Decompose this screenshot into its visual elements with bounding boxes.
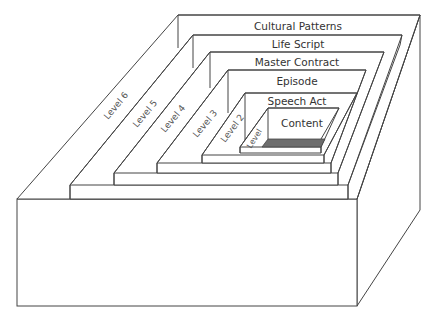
ring-title-level-2: Speech Act (268, 95, 327, 107)
ring-title-level-5: Life Script (272, 38, 325, 50)
ring-title-level-3: Episode (276, 75, 317, 87)
ring-title-level-6: Cultural Patterns (254, 20, 342, 32)
content-floor (262, 139, 325, 147)
ring-title-level-1: Content (281, 117, 323, 129)
nested-levels-diagram: Cultural Patterns Life Script Master Con… (0, 0, 440, 320)
outer-box-front-face (17, 199, 357, 306)
ring-title-level-4: Master Contract (255, 56, 339, 68)
